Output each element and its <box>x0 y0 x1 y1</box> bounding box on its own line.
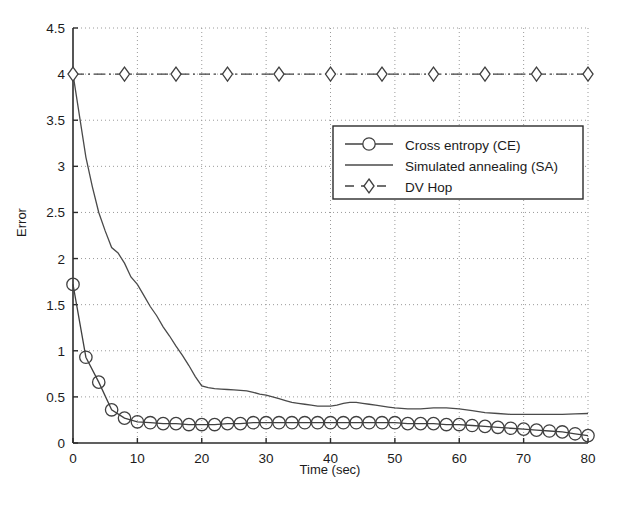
svg-text:0: 0 <box>57 436 65 451</box>
chart-legend: Cross entropy (CE)Simulated annealing (S… <box>333 126 583 199</box>
series-dv-hop <box>68 67 593 81</box>
svg-text:60: 60 <box>452 451 467 466</box>
svg-text:4.5: 4.5 <box>46 21 65 36</box>
legend-item-label: Simulated annealing (SA) <box>405 159 558 174</box>
x-axis-label: Time (sec) <box>255 462 405 477</box>
svg-text:1.5: 1.5 <box>46 298 65 313</box>
svg-text:3.5: 3.5 <box>46 113 65 128</box>
chart-figure: Error Time (sec) 00.511.522.533.544.5010… <box>0 0 624 507</box>
svg-text:3: 3 <box>57 159 65 174</box>
svg-text:1: 1 <box>57 344 65 359</box>
legend-item-label: DV Hop <box>405 180 452 195</box>
svg-text:0: 0 <box>69 451 77 466</box>
svg-text:70: 70 <box>516 451 531 466</box>
gridlines <box>73 28 588 443</box>
svg-text:2: 2 <box>57 252 65 267</box>
svg-text:80: 80 <box>580 451 595 466</box>
y-axis-label: Error <box>14 193 29 253</box>
svg-text:0.5: 0.5 <box>46 390 65 405</box>
plot-area: 00.511.522.533.544.501020304050607080 Cr… <box>0 0 624 507</box>
legend-item-label: Cross entropy (CE) <box>405 138 521 153</box>
svg-text:2.5: 2.5 <box>46 205 65 220</box>
svg-text:10: 10 <box>130 451 145 466</box>
axis-tick-labels: 00.511.522.533.544.501020304050607080 <box>46 21 595 466</box>
svg-text:20: 20 <box>194 451 209 466</box>
svg-text:4: 4 <box>57 67 65 82</box>
